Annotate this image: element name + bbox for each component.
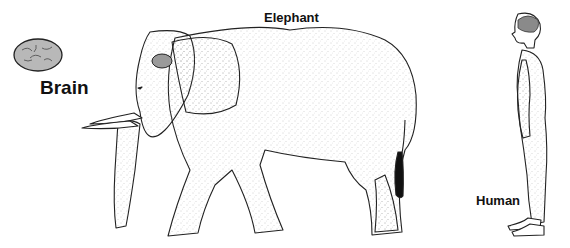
elephant-figure	[82, 27, 416, 236]
elephant-label: Elephant	[264, 10, 319, 25]
brain-label: Brain	[40, 77, 89, 99]
illustration	[0, 0, 570, 248]
brain-size-diagram: Brain Elephant Human	[0, 0, 570, 248]
brain-icon	[14, 39, 62, 71]
human-label: Human	[476, 193, 520, 208]
